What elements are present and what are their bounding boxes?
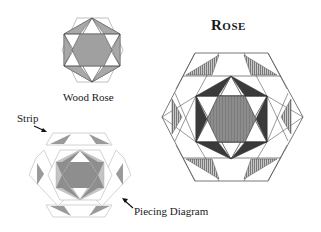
rose-block bbox=[162, 53, 303, 181]
wood-rose-label: Wood Rose bbox=[63, 92, 114, 103]
wood-rose-block bbox=[62, 18, 123, 82]
quilt-diagram-canvas: Rose Wood Rose Strip Piecing Diagram bbox=[0, 0, 321, 232]
strip-arrow-icon bbox=[34, 126, 47, 132]
rose-title: Rose bbox=[211, 18, 246, 33]
piecing-arrow-icon bbox=[122, 198, 133, 208]
piecing-diagram-block bbox=[29, 133, 131, 217]
piecing-diagram-label: Piecing Diagram bbox=[134, 206, 208, 217]
strip-label: Strip bbox=[17, 113, 38, 124]
quilt-diagrams-svg bbox=[0, 0, 321, 232]
